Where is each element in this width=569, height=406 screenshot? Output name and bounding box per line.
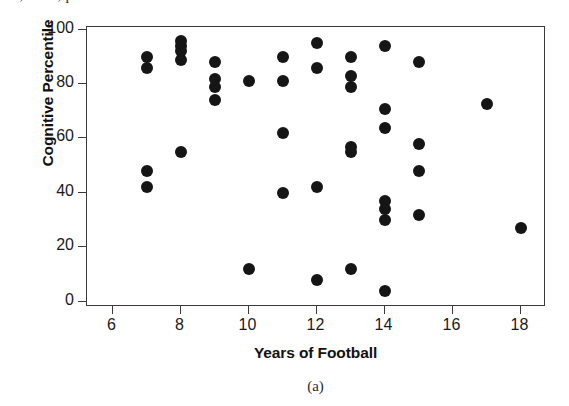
y-tick-label: 0 [14,291,74,309]
scatter-plot-figure: Cognitive Percentile 020406080100 681012… [0,0,569,406]
scatter-point [311,274,323,286]
panel-caption: (a) [86,378,545,395]
scatter-point [413,209,425,221]
x-axis-label: Years of Football [86,344,545,362]
scatter-point [515,222,527,234]
y-tick-label: 100 [14,19,74,37]
scatter-point [379,103,391,115]
y-tick-label: 80 [14,73,74,91]
scatter-point [209,81,221,93]
scatter-point [379,214,391,226]
scatter-point [141,181,153,193]
scatter-point [379,40,391,52]
scatter-point [141,62,153,74]
scatter-point [277,127,289,139]
scatter-point [209,56,221,68]
scatter-points-layer [87,27,544,305]
y-tick-mark [78,192,86,193]
y-tick-label: 20 [14,236,74,254]
y-tick-mark [78,246,86,247]
plot-area [86,26,545,306]
scatter-point [379,122,391,134]
x-tick-mark [180,306,181,314]
x-tick-mark [248,306,249,314]
scatter-point [413,56,425,68]
scatter-point [481,98,493,110]
x-tick-label: 12 [286,316,346,334]
scatter-point [311,62,323,74]
y-tick-mark [78,301,86,302]
y-tick-mark [78,29,86,30]
x-tick-label: 14 [354,316,414,334]
y-tick-mark [78,83,86,84]
x-tick-mark [452,306,453,314]
scatter-point [243,263,255,275]
y-tick-mark [78,137,86,138]
scatter-point [243,75,255,87]
scatter-point [345,81,357,93]
x-tick-label: 10 [218,316,278,334]
scatter-point [209,94,221,106]
x-tick-label: 18 [490,316,550,334]
scatter-point [175,54,187,66]
x-tick-mark [316,306,317,314]
y-tick-label: 60 [14,127,74,145]
x-tick-mark [520,306,521,314]
scatter-point [311,181,323,193]
scatter-point [345,146,357,158]
scatter-point [413,165,425,177]
scatter-point [277,51,289,63]
x-tick-mark [112,306,113,314]
scatter-point [141,165,153,177]
x-tick-mark [384,306,385,314]
scatter-point [345,263,357,275]
scatter-point [311,37,323,49]
scatter-point [345,51,357,63]
scatter-point [379,285,391,297]
scatter-point [277,75,289,87]
x-tick-label: 8 [150,316,210,334]
x-tick-label: 16 [422,316,482,334]
scatter-point [413,138,425,150]
scatter-point [175,146,187,158]
x-tick-label: 6 [82,316,142,334]
y-tick-label: 40 [14,182,74,200]
scatter-point [277,187,289,199]
